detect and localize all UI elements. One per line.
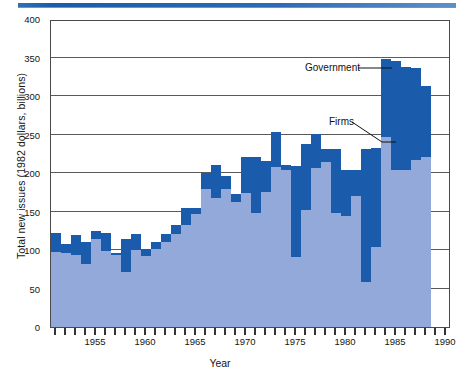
bar-segment-firms: [261, 192, 270, 327]
x-axis-tick: [154, 328, 155, 335]
bar-1952: [61, 244, 70, 327]
y-axis-tick-label: 200: [24, 169, 40, 179]
y-axis-tick-label: 150: [24, 208, 40, 218]
bar-1972: [261, 161, 270, 327]
x-axis-tick-labels: 19551960196519701975198019851990: [0, 336, 456, 350]
bar-1985: [391, 61, 400, 327]
bar-segment-government: [341, 170, 350, 216]
bar-1954: [81, 242, 90, 327]
x-axis-tick-label: 1975: [284, 336, 305, 347]
x-axis-tick: [384, 328, 385, 335]
bar-segment-firms: [111, 255, 120, 327]
bar-1980: [341, 170, 350, 327]
bar-segment-government: [191, 208, 200, 213]
x-axis-tick: [94, 328, 95, 335]
x-axis-tick: [414, 328, 415, 335]
x-axis-tick: [314, 328, 315, 335]
x-axis-tick: [304, 328, 305, 335]
x-axis-tick-label: 1955: [84, 336, 105, 347]
bar-1968: [221, 176, 230, 327]
bar-segment-government: [331, 149, 340, 213]
bar-segment-firms: [271, 167, 280, 327]
bar-segment-government: [71, 235, 80, 255]
x-axis-tick-label: 1970: [234, 336, 255, 347]
bar-1971: [251, 157, 260, 327]
bar-segment-firms: [81, 264, 90, 327]
bar-segment-firms: [321, 162, 330, 327]
bar-segment-firms: [101, 251, 110, 327]
x-axis-tick: [284, 328, 285, 335]
bar-segment-government: [101, 233, 110, 251]
bar-segment-government: [181, 208, 190, 224]
x-axis-tick: [234, 328, 235, 335]
bar-segment-government: [171, 225, 180, 234]
x-axis-tick: [254, 328, 255, 335]
bar-segment-firms: [281, 170, 290, 327]
bar-segment-firms: [381, 137, 390, 327]
x-axis-tick: [204, 328, 205, 335]
x-axis-tick: [344, 328, 345, 335]
bar-1965: [191, 208, 200, 327]
y-axis-tick-label: 0: [35, 323, 40, 333]
bar-segment-firms: [331, 213, 340, 327]
bar-1957: [111, 253, 120, 327]
bar-segment-firms: [341, 216, 350, 327]
x-axis-tick: [364, 328, 365, 335]
bar-segment-firms: [291, 257, 300, 327]
x-axis-tick: [184, 328, 185, 335]
bar-segment-government: [221, 176, 230, 189]
bar-segment-government: [241, 157, 250, 193]
x-axis-tick: [164, 328, 165, 335]
bar-1973: [271, 132, 280, 327]
bar-1951: [51, 233, 60, 327]
bar-segment-firms: [251, 213, 260, 327]
plot-area: [50, 20, 450, 328]
bar-1979: [331, 149, 340, 327]
bar-segment-government: [361, 149, 370, 281]
bar-1975: [291, 166, 300, 327]
x-axis-ticks: [50, 328, 450, 335]
bar-segment-firms: [51, 252, 60, 327]
bar-1953: [71, 235, 80, 327]
bar-segment-government: [161, 234, 170, 242]
bar-segment-government: [131, 234, 140, 250]
bar-segment-firms: [181, 225, 190, 327]
bar-segment-government: [251, 157, 260, 213]
bar-segment-government: [81, 242, 90, 264]
x-axis-tick-label: 1965: [184, 336, 205, 347]
bar-segment-government: [61, 244, 70, 253]
x-axis-title: Year: [0, 357, 456, 369]
y-axis-tick-label: 300: [24, 92, 40, 102]
x-axis-tick: [374, 328, 375, 335]
x-axis-tick: [274, 328, 275, 335]
bars-layer: [51, 21, 449, 327]
bar-segment-firms: [71, 255, 80, 327]
x-axis-tick: [224, 328, 225, 335]
x-axis-tick: [174, 328, 175, 335]
bar-segment-government: [231, 194, 240, 202]
x-axis-tick: [84, 328, 85, 335]
bar-segment-firms: [411, 160, 420, 327]
bar-1959: [131, 234, 140, 327]
bar-1962: [161, 234, 170, 327]
bar-1956: [101, 233, 110, 327]
x-axis-title-text: Year: [209, 357, 230, 369]
x-axis-tick: [424, 328, 425, 335]
bar-1981: [351, 170, 360, 327]
bar-segment-government: [111, 253, 120, 255]
x-axis-tick: [334, 328, 335, 335]
bar-1978: [321, 149, 330, 327]
bar-1986: [401, 67, 410, 327]
bar-segment-government: [201, 173, 210, 189]
bar-segment-firms: [361, 282, 370, 327]
x-axis-tick: [114, 328, 115, 335]
bar-segment-government: [121, 239, 130, 272]
bar-1987: [411, 68, 420, 327]
y-axis-tick-label: 400: [24, 15, 40, 25]
bar-segment-firms: [131, 250, 140, 327]
bar-segment-firms: [231, 202, 240, 328]
bar-segment-government: [411, 68, 420, 160]
bar-segment-government: [301, 144, 310, 210]
bar-1970: [241, 157, 250, 327]
x-axis-tick: [74, 328, 75, 335]
